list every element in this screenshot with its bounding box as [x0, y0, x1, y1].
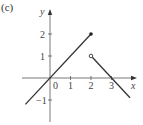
y-tick-neg1: −1 [36, 95, 47, 106]
y-tick-1: 1 [40, 51, 45, 62]
line-piece-1 [25, 34, 91, 104]
x-tick-2: 2 [89, 80, 94, 91]
piecewise-graph: 0 1 2 3 2 1 −1 x y [0, 0, 143, 125]
x-tick-3: 3 [109, 80, 114, 91]
y-tick-2: 2 [40, 29, 45, 40]
x-tick-1: 1 [68, 80, 73, 91]
x-axis-label: x [130, 80, 136, 91]
y-axis-label: y [39, 6, 45, 17]
open-circle-marker [89, 54, 93, 58]
closed-dot-marker [89, 32, 93, 36]
x-tick-0: 0 [53, 80, 58, 91]
y-axis-arrow-icon [48, 9, 52, 15]
line-piece-2 [92, 57, 130, 98]
